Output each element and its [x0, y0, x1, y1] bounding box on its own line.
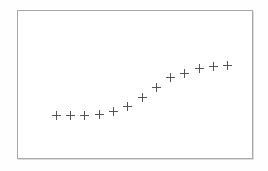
scatter-point-marker	[109, 107, 118, 116]
scatter-point-marker	[166, 73, 175, 82]
plot-frame	[17, 10, 253, 159]
scatter-point-marker	[66, 111, 75, 120]
scatter-point-marker	[180, 69, 189, 78]
scatter-point-marker	[209, 62, 218, 71]
scatter-point-marker	[223, 61, 232, 70]
scatter-plot-area	[18, 11, 252, 158]
figure-container	[0, 0, 268, 171]
scatter-point-marker	[52, 111, 61, 120]
scatter-point-marker	[95, 110, 104, 119]
scatter-point-marker	[138, 93, 147, 102]
scatter-point-marker	[80, 111, 89, 120]
scatter-point-marker	[152, 83, 161, 92]
scatter-point-marker	[195, 64, 204, 73]
scatter-point-marker	[123, 102, 132, 111]
